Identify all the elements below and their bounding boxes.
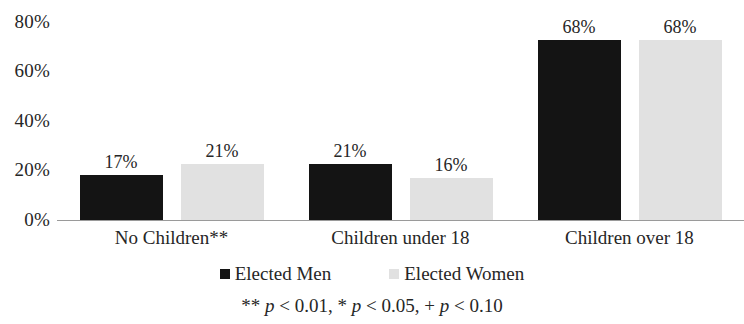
x-axis-baseline: [57, 220, 744, 221]
footnote-part-2: < 0.01, *: [275, 295, 352, 316]
y-tick-40: 40%: [2, 111, 50, 130]
footnote-p-3: p: [440, 295, 450, 316]
bar-slot-men: 17%: [80, 8, 163, 220]
bar-group-no-children: 17% 21%: [57, 8, 286, 220]
y-axis: 80% 60% 40% 20% 0%: [0, 0, 57, 228]
x-axis-category-labels: No Children** Children under 18 Children…: [57, 226, 744, 252]
y-tick-20: 20%: [2, 160, 50, 179]
bar-value-label: 68%: [664, 18, 697, 36]
bar-value-label: 21%: [334, 142, 367, 160]
footnote-part-1: **: [241, 295, 265, 316]
footnote-p-2: p: [352, 295, 362, 316]
bar-chart-figure: 80% 60% 40% 20% 0% 17% 21% 21%: [0, 0, 744, 324]
footnote-part-4: < 0.10: [449, 295, 502, 316]
legend-swatch-men-icon: [220, 269, 230, 279]
y-tick-60: 60%: [2, 61, 50, 80]
legend-swatch-women-icon: [389, 269, 399, 279]
legend-label-men: Elected Men: [235, 264, 332, 284]
bar-men[interactable]: [538, 40, 621, 220]
chart-legend: Elected Men Elected Women: [0, 262, 744, 286]
bar-men[interactable]: [80, 175, 163, 220]
bar-value-label: 17%: [105, 153, 138, 171]
bar-slot-men: 68%: [538, 8, 621, 220]
bar-value-label: 16%: [435, 156, 468, 174]
footnote-p-1: p: [265, 295, 275, 316]
significance-footnote: ** p < 0.01, * p < 0.05, + p < 0.10: [0, 294, 744, 318]
y-tick-0: 0%: [2, 210, 50, 229]
bar-men[interactable]: [309, 164, 392, 220]
category-label-children-under-18: Children under 18: [286, 226, 515, 252]
legend-item-elected-men[interactable]: Elected Men: [220, 264, 332, 284]
bar-women[interactable]: [639, 40, 722, 220]
bar-group-children-under-18: 21% 16%: [286, 8, 515, 220]
bar-slot-men: 21%: [309, 8, 392, 220]
category-label-no-children: No Children**: [57, 226, 286, 252]
y-tick-80: 80%: [2, 12, 50, 31]
bar-group-children-over-18: 68% 68%: [515, 8, 744, 220]
bar-women[interactable]: [181, 164, 264, 220]
bar-value-label: 21%: [206, 142, 239, 160]
bar-value-label: 68%: [563, 18, 596, 36]
bar-slot-women: 16%: [410, 8, 493, 220]
bar-women[interactable]: [410, 178, 493, 220]
legend-label-women: Elected Women: [404, 264, 524, 284]
bar-groups: 17% 21% 21% 16%: [57, 8, 744, 220]
category-label-children-over-18: Children over 18: [515, 226, 744, 252]
footnote-part-3: < 0.05, +: [361, 295, 439, 316]
bar-slot-women: 21%: [181, 8, 264, 220]
legend-item-elected-women[interactable]: Elected Women: [389, 264, 524, 284]
bar-slot-women: 68%: [639, 8, 722, 220]
